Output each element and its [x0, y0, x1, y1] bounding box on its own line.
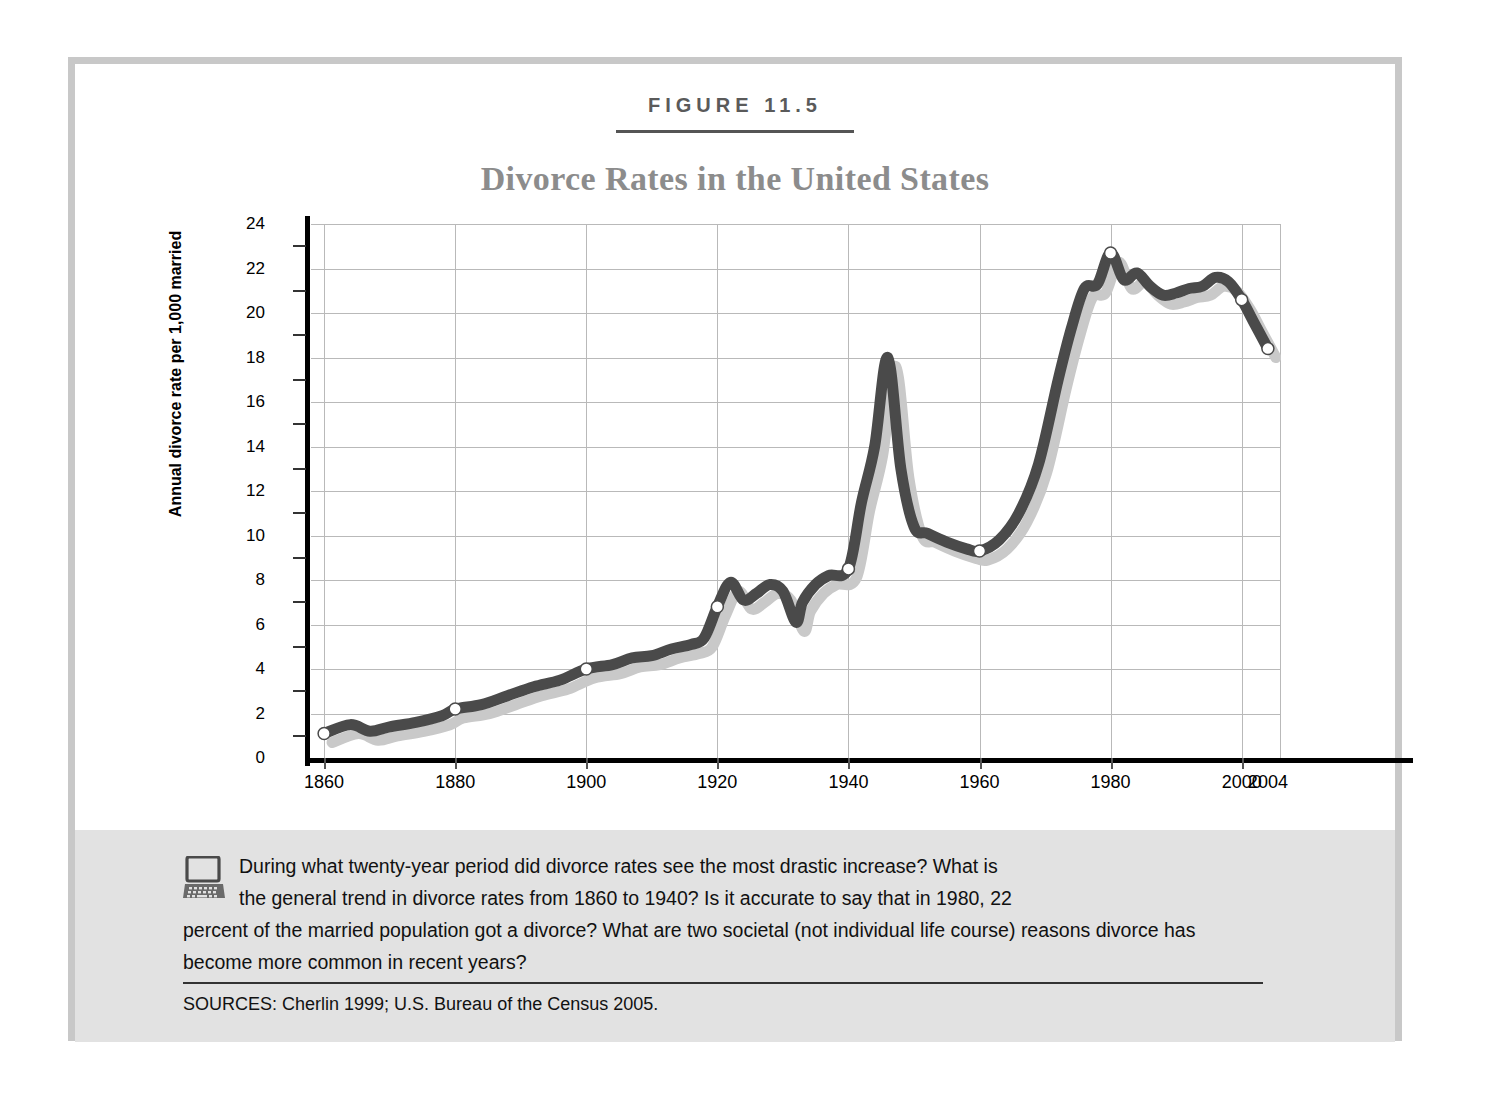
y-minor-tick	[293, 245, 306, 247]
y-tick-label: 12	[246, 481, 265, 501]
y-minor-tick	[293, 557, 306, 559]
x-tick-mark	[717, 758, 719, 769]
x-tick-label: 1860	[304, 772, 344, 793]
x-tick-label: 2004	[1248, 772, 1288, 793]
caption-line-1: During what twenty-year period did divor…	[183, 850, 1263, 882]
figure-frame: FIGURE 11.5 Divorce Rates in the United …	[68, 57, 1402, 1041]
data-point-marker	[1262, 343, 1274, 355]
x-tick-label: 1880	[435, 772, 475, 793]
y-tick-label: 24	[246, 214, 265, 234]
y-minor-tick	[293, 290, 306, 292]
series-line	[311, 224, 1281, 758]
y-tick-label: 20	[246, 303, 265, 323]
x-tick-mark	[1242, 758, 1244, 769]
figure-label: FIGURE 11.5	[75, 94, 1395, 117]
x-tick-mark	[586, 758, 588, 769]
y-tick-label: 4	[256, 659, 265, 679]
y-tick-label: 22	[246, 259, 265, 279]
computer-icon	[183, 856, 225, 902]
x-tick-label: 1960	[959, 772, 999, 793]
x-tick-label: 1980	[1091, 772, 1131, 793]
data-point-marker	[1236, 294, 1248, 306]
x-tick-mark	[455, 758, 457, 769]
x-tick-mark	[1111, 758, 1113, 769]
y-tick-label: 10	[246, 526, 265, 546]
y-tick-label: 6	[256, 615, 265, 635]
caption-line-3: percent of the married population got a …	[183, 919, 1015, 941]
x-tick-label: 1940	[828, 772, 868, 793]
caption-band: During what twenty-year period did divor…	[75, 830, 1395, 1042]
y-axis-line	[305, 216, 310, 766]
data-point-marker	[1105, 247, 1117, 259]
caption-text: During what twenty-year period did divor…	[183, 850, 1263, 978]
x-axis-line	[305, 758, 1413, 763]
sources-text: SOURCES: Cherlin 1999; U.S. Bureau of th…	[183, 994, 658, 1015]
x-tick-label: 1900	[566, 772, 606, 793]
y-tick-labels: 024681012141618202224	[211, 224, 275, 758]
y-minor-tick	[293, 468, 306, 470]
figure-page: FIGURE 11.5 Divorce Rates in the United …	[0, 0, 1498, 1117]
data-point-marker	[974, 545, 986, 557]
data-point-marker	[449, 703, 461, 715]
y-tick-label: 14	[246, 437, 265, 457]
figure-rule	[616, 130, 854, 133]
plot-area	[311, 224, 1281, 758]
y-tick-label: 16	[246, 392, 265, 412]
chart-container: Annual divorce rate per 1,000 married 02…	[175, 224, 1295, 824]
data-point-marker	[580, 663, 592, 675]
y-tick-label: 18	[246, 348, 265, 368]
sources-rule	[183, 982, 1263, 984]
x-tick-mark	[324, 758, 326, 769]
series-line-main	[324, 253, 1268, 734]
figure-title: Divorce Rates in the United States	[75, 160, 1395, 198]
y-tick-label: 2	[256, 704, 265, 724]
y-minor-tick	[293, 735, 306, 737]
caption-line-2: the general trend in divorce rates from …	[183, 882, 1263, 914]
y-minor-tick	[293, 646, 306, 648]
x-tick-mark	[980, 758, 982, 769]
caption-block: During what twenty-year period did divor…	[183, 850, 1263, 978]
y-tick-label: 0	[256, 748, 265, 768]
y-minor-tick	[293, 690, 306, 692]
y-tick-label: 8	[256, 570, 265, 590]
y-minor-tick	[293, 601, 306, 603]
data-point-marker	[842, 563, 854, 575]
data-point-marker	[711, 601, 723, 613]
y-minor-tick	[293, 512, 306, 514]
y-axis-label: Annual divorce rate per 1,000 married	[167, 224, 185, 524]
series-line-shadow	[332, 262, 1276, 743]
x-tick-mark	[848, 758, 850, 769]
data-point-marker	[318, 728, 330, 740]
y-minor-tick	[293, 379, 306, 381]
x-tick-label: 1920	[697, 772, 737, 793]
y-minor-tick	[293, 334, 306, 336]
y-minor-tick	[293, 423, 306, 425]
